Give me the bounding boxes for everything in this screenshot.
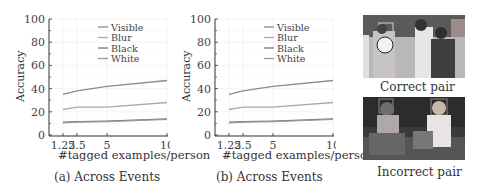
legend-label: Black: [111, 43, 138, 54]
legend-label: White: [277, 53, 306, 64]
y-tick-label: 80: [197, 36, 211, 49]
correct-pair-image: [363, 15, 465, 78]
chart-a-caption: (a) Across Events: [54, 170, 160, 184]
chart-b: 0204060801001.252.5510VisibleBlurBlackWh…: [166, 0, 336, 190]
y-tick-label: 20: [31, 106, 45, 119]
y-tick-label: 0: [38, 129, 45, 142]
y-tick-label: 100: [190, 13, 211, 26]
y-tick-label: 0: [204, 129, 211, 142]
incorrect-pair-caption: Incorrect pair: [377, 165, 462, 179]
incorrect-pair-photo: [363, 97, 465, 160]
legend-label: Blur: [277, 32, 298, 43]
series-line-blur: [229, 103, 333, 110]
chart-a: 0204060801001.252.5510VisibleBlurBlackWh…: [0, 0, 170, 190]
y-tick-label: 60: [197, 59, 211, 72]
y-tick-label: 40: [31, 83, 45, 96]
series-line-visible: [63, 81, 167, 95]
y-tick-label: 40: [197, 83, 211, 96]
legend-label: Visible: [276, 22, 310, 33]
legend-label: Visible: [110, 22, 144, 33]
legend-label: Blur: [111, 32, 132, 43]
correct-pair-caption: Correct pair: [380, 80, 455, 94]
chart-b-ylabel: Accuracy: [180, 50, 193, 102]
y-tick-label: 60: [31, 59, 45, 72]
series-line-blur: [63, 103, 167, 110]
chart-b-xlabel: #tagged examples/person: [222, 148, 374, 162]
y-tick-label: 80: [31, 36, 45, 49]
y-tick-label: 20: [197, 106, 211, 119]
series-line-visible: [229, 81, 333, 95]
incorrect-pair-image: [363, 97, 465, 160]
legend-label: White: [111, 53, 140, 64]
y-tick-label: 100: [24, 13, 45, 26]
chart-b-caption: (b) Across Events: [216, 170, 323, 184]
correct-pair-photo: [363, 15, 465, 78]
legend-label: Black: [277, 43, 304, 54]
chart-a-ylabel: Accuracy: [14, 50, 27, 102]
